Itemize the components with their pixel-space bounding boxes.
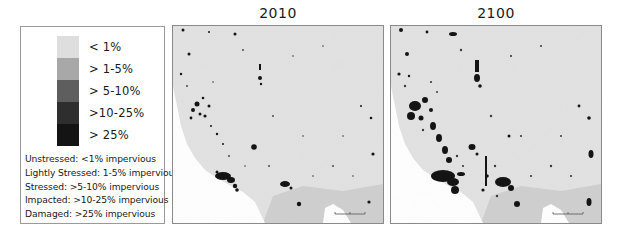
map-title-2100: 2100	[390, 5, 602, 21]
legend-label-impacted: >10-25%	[89, 102, 144, 124]
swatch-lightly-stressed	[57, 58, 79, 80]
swatch-impacted	[57, 102, 79, 124]
legend-labels: < 1% > 1-5% > 5-10% >10-25% > 25%	[89, 36, 144, 146]
legend-definitions: Unstressed: <1% impervious Lightly Stres…	[25, 152, 179, 221]
definition-damaged: Damaged: >25% impervious	[25, 207, 179, 221]
definition-impacted: Impacted: >10-25% impervious	[25, 193, 179, 207]
definition-stressed: Stressed: >5-10% impervious	[25, 180, 179, 194]
legend-label-damaged: > 25%	[89, 124, 144, 146]
map-2010-graphic	[173, 26, 383, 223]
definition-unstressed: Unstressed: <1% impervious	[25, 152, 179, 166]
legend-swatches	[57, 36, 79, 146]
legend-label-lightly-stressed: > 1-5%	[89, 58, 144, 80]
definition-lightly-stressed: Lightly Stressed: 1-5% impervious	[25, 166, 179, 180]
map-title-2010: 2010	[172, 5, 384, 21]
legend: < 1% > 1-5% > 5-10% >10-25% > 25% Unstre…	[20, 26, 165, 224]
swatch-stressed	[57, 80, 79, 102]
swatch-unstressed	[57, 36, 79, 58]
swatch-damaged	[57, 124, 79, 146]
legend-label-stressed: > 5-10%	[89, 80, 144, 102]
map-2100-graphic	[391, 26, 601, 223]
legend-label-unstressed: < 1%	[89, 36, 144, 58]
map-panel-2010	[172, 25, 384, 224]
map-panel-2100	[390, 25, 602, 224]
